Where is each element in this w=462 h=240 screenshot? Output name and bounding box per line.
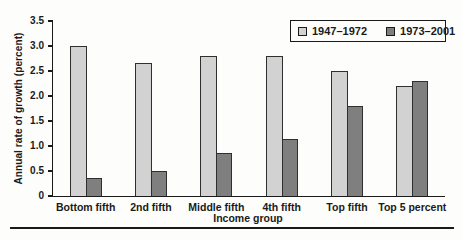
group-top-5-percent: Top 5 percent <box>380 21 445 196</box>
tick-label-0: 0 <box>14 190 44 202</box>
tick-label-2-5: 2.5 <box>14 65 44 77</box>
bar-1947-1972-top-fifth <box>331 71 348 196</box>
legend-label: 1947–1972 <box>312 25 367 37</box>
category-label-top-fifth: Top fifth <box>326 201 367 213</box>
tick-label-2-0: 2.0 <box>14 90 44 102</box>
bar-1973-2001-2nd-fifth <box>151 171 167 196</box>
bar-1947-1972-bottom-fifth <box>70 46 87 196</box>
legend: 1947–19721973–2001 <box>290 20 446 42</box>
tick-label-0-5: 0.5 <box>14 165 44 177</box>
bar-1947-1972-4th-fifth <box>266 56 283 196</box>
legend-swatch-icon <box>298 27 307 36</box>
bottom-rule <box>10 227 454 229</box>
legend-label: 1973–2001 <box>400 25 455 37</box>
bar-1947-1972-top-5-percent <box>396 86 413 196</box>
category-label-2nd-fifth: 2nd fifth <box>130 201 171 213</box>
bar-1973-2001-top-5-percent <box>412 81 428 196</box>
tick-label-3-5: 3.5 <box>14 15 44 27</box>
x-axis-title: Income group <box>213 212 282 224</box>
group-bottom-fifth: Bottom fifth <box>53 21 118 196</box>
category-label-bottom-fifth: Bottom fifth <box>56 201 115 213</box>
legend-swatch-icon <box>386 27 395 36</box>
group-2nd-fifth: 2nd fifth <box>118 21 183 196</box>
bar-1973-2001-bottom-fifth <box>86 178 102 196</box>
legend-item-1947-1972: 1947–1972 <box>298 25 367 37</box>
category-label-top-5-percent: Top 5 percent <box>378 201 446 213</box>
group-middle-fifth: Middle fifth <box>184 21 249 196</box>
tick-label-1-0: 1.0 <box>14 140 44 152</box>
legend-item-1973-2001: 1973–2001 <box>386 25 455 37</box>
bar-groups: Bottom fifth2nd fifthMiddle fifth4th fif… <box>53 21 445 196</box>
group-top-fifth: Top fifth <box>314 21 379 196</box>
bar-1947-1972-2nd-fifth <box>135 63 152 196</box>
bar-1947-1972-middle-fifth <box>200 56 217 196</box>
bar-1973-2001-top-fifth <box>347 106 363 196</box>
tick-label-1-5: 1.5 <box>14 115 44 127</box>
group-4th-fifth: 4th fifth <box>249 21 314 196</box>
bar-1973-2001-middle-fifth <box>216 153 232 196</box>
tick-label-3-0: 3.0 <box>14 40 44 52</box>
plot-area: 00.51.01.52.02.53.03.5 Bottom fifth2nd f… <box>52 21 445 197</box>
figure: Annual rate of growth (percent) 00.51.01… <box>0 0 462 240</box>
bar-1973-2001-4th-fifth <box>282 139 298 196</box>
